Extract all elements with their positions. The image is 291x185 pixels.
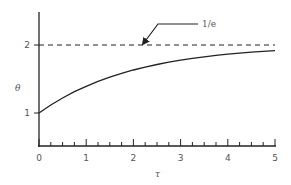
annotation-arrow [143,24,198,44]
x-axis-label: τ [155,169,161,179]
x-tick-label: 0 [36,153,42,163]
x-tick-label: 5 [272,153,278,163]
x-tick-label: 4 [225,153,231,163]
x-tick-label: 3 [178,153,184,163]
axes [38,12,276,147]
x-tick-label: 2 [131,153,137,163]
series [39,45,275,113]
annotation-label: 1/e [202,19,216,29]
x-tick-label: 1 [83,153,89,163]
y-tick-label: 2 [24,40,30,50]
y-ticks: 12 [24,40,39,118]
theta-curve [39,51,275,113]
annotation: 1/e [143,19,216,44]
x-ticks: 012345 [36,139,278,163]
chart: 012345 12 1/e θ τ [0,0,291,185]
y-axis-label: θ [15,83,21,93]
y-tick-label: 1 [24,108,30,118]
